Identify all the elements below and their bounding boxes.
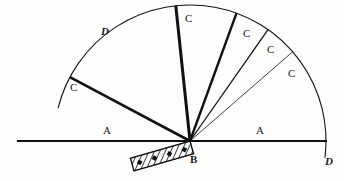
ray-1 [70, 77, 190, 141]
arc-label-left-d: D [101, 26, 109, 37]
ray-label-c-5: C [288, 68, 295, 79]
ray-2 [176, 6, 190, 141]
magnet-body [130, 141, 193, 171]
ray-3 [190, 13, 237, 141]
ray-label-c-4: C [267, 44, 274, 55]
physics-figure: D D A A B C C C C C [0, 0, 344, 181]
ray-label-c-2: C [185, 13, 192, 24]
bar-magnet [130, 141, 193, 171]
figure-drawing [0, 0, 344, 181]
ray-label-c-3: C [243, 28, 250, 39]
arc-label-right-d: D [325, 156, 333, 167]
baseline-label-right-a: A [256, 125, 264, 136]
magnet-label-b: B [190, 154, 197, 165]
ray-label-c-1: C [70, 82, 77, 93]
baseline-label-left-a: A [103, 125, 111, 136]
